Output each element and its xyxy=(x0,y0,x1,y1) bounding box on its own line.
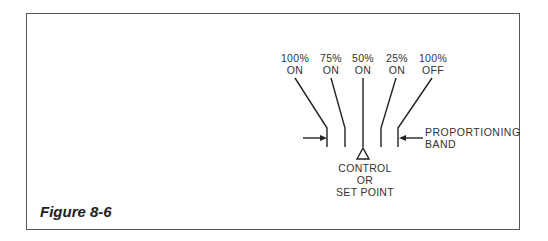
label-state: ON xyxy=(350,64,376,76)
label-state: OFF xyxy=(418,64,448,76)
proportioning-band-label: PROPORTIONING BAND xyxy=(425,126,521,150)
label-percent: 75% xyxy=(318,52,344,64)
figure-caption: Figure 8-6 xyxy=(40,203,112,220)
label-percent: 25% xyxy=(384,52,410,64)
line-25-on xyxy=(381,78,396,147)
set-point-line1: CONTROL xyxy=(330,162,400,174)
label-25-on: 25% ON xyxy=(384,52,410,76)
label-75-on: 75% ON xyxy=(318,52,344,76)
label-state: ON xyxy=(318,64,344,76)
label-50-on: 50% ON xyxy=(350,52,376,76)
set-point-line2: OR xyxy=(330,174,400,186)
band-label-line1: PROPORTIONING xyxy=(425,126,521,138)
set-point-line3: SET POINT xyxy=(330,186,400,198)
label-state: ON xyxy=(280,64,310,76)
set-point-label: CONTROL OR SET POINT xyxy=(330,162,400,198)
label-percent: 100% xyxy=(418,52,448,64)
label-percent: 50% xyxy=(350,52,376,64)
right-arrowhead-icon xyxy=(399,135,406,141)
label-state: ON xyxy=(384,64,410,76)
left-arrowhead-icon xyxy=(320,135,327,141)
label-percent: 100% xyxy=(280,52,310,64)
label-100-off: 100% OFF xyxy=(418,52,448,76)
label-100-on: 100% ON xyxy=(280,52,310,76)
set-point-triangle-icon xyxy=(357,148,369,159)
band-label-line2: BAND xyxy=(425,138,521,150)
line-75-on xyxy=(331,78,345,147)
